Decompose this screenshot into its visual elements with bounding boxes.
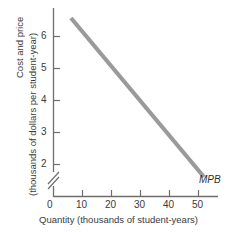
- mpb-curve-line: [71, 18, 204, 177]
- y-tick-label-2: 2: [41, 159, 47, 169]
- x-tick-label-50: 50: [192, 200, 203, 210]
- x-tick-label-0: 0: [47, 200, 53, 210]
- x-axis-title: Quantity (thousands of student-years): [0, 215, 237, 226]
- x-tick-label-40: 40: [163, 200, 174, 210]
- y-tick-label-3: 3: [41, 127, 47, 137]
- x-tick-label-20: 20: [105, 200, 116, 210]
- x-tick-label-10: 10: [76, 200, 87, 210]
- y-axis-title-line-2: (thousands of dollars per student-year): [27, 33, 38, 196]
- x-tick-label-30: 30: [134, 200, 145, 210]
- y-tick-label-4: 4: [41, 95, 47, 105]
- y-tick-label-5: 5: [41, 63, 47, 73]
- mpb-curve-label: MPB: [199, 174, 221, 185]
- y-axis-title-line-1: Cost and price: [14, 17, 25, 78]
- y-tick-label-6: 6: [41, 31, 47, 41]
- chart-figure: 6 5 4 3 2 0 10 20 30 40 50 Quantity (tho…: [0, 0, 237, 232]
